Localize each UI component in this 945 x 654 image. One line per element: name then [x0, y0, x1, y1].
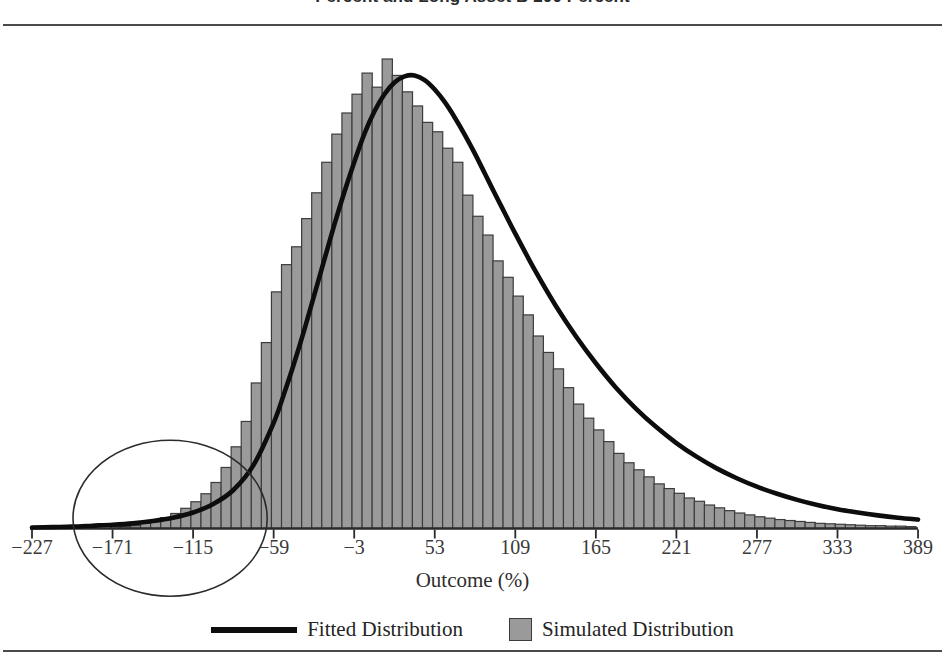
- chart-legend: Fitted Distribution Simulated Distributi…: [0, 617, 945, 642]
- histogram-bar: [513, 296, 523, 528]
- x-tick-label: −3: [344, 536, 365, 559]
- legend-item-fitted: Fitted Distribution: [211, 617, 463, 642]
- histogram-bar: [463, 195, 473, 528]
- histogram-bar: [664, 489, 674, 529]
- histogram-bar: [412, 106, 422, 529]
- histogram-bar: [443, 148, 453, 528]
- x-tick-label: 165: [581, 536, 611, 559]
- histogram-bar: [594, 430, 604, 529]
- histogram-bar: [493, 261, 503, 529]
- histogram-bar: [533, 336, 543, 529]
- legend-item-simulated: Simulated Distribution: [509, 617, 734, 642]
- histogram-bar: [483, 235, 493, 528]
- histogram-bar: [573, 404, 583, 528]
- histogram-bar: [322, 162, 332, 528]
- histogram-bar: [312, 193, 322, 529]
- histogram-bar: [704, 505, 714, 528]
- histogram-bar: [634, 470, 644, 529]
- histogram-bar: [735, 513, 745, 528]
- x-tick-label: −59: [258, 536, 289, 559]
- histogram-bar: [624, 463, 634, 529]
- legend-line-swatch-icon: [211, 627, 297, 633]
- histogram-bar: [292, 247, 302, 529]
- histogram-bar: [523, 315, 533, 529]
- histogram-bar: [775, 520, 785, 529]
- histogram-bar: [765, 518, 775, 528]
- histogram-bar: [453, 162, 463, 528]
- bottom-divider: [3, 650, 942, 652]
- histogram-bar: [694, 501, 704, 528]
- chart-figure: Percent and Long Asset B 200 Percent −22…: [0, 0, 945, 654]
- x-tick-label: 333: [823, 536, 853, 559]
- histogram-bar: [503, 277, 513, 528]
- x-tick-label: 221: [661, 536, 691, 559]
- histogram-bar: [604, 442, 614, 529]
- histogram-bar: [543, 352, 553, 528]
- histogram-bar: [422, 122, 432, 528]
- histogram-bar: [302, 219, 312, 529]
- legend-box-swatch-icon: [509, 618, 532, 641]
- x-tick-labels: −227−171−115−59−353109165221277333389: [0, 536, 945, 562]
- histogram-bar: [725, 511, 735, 529]
- x-tick-label: −171: [92, 536, 133, 559]
- legend-label-simulated: Simulated Distribution: [542, 617, 734, 642]
- legend-label-fitted: Fitted Distribution: [307, 617, 463, 642]
- histogram-svg: [0, 0, 945, 600]
- histogram-bar: [755, 517, 765, 529]
- histogram-bar: [584, 418, 594, 528]
- histogram-bar: [644, 477, 654, 529]
- histogram-bar: [402, 92, 412, 529]
- histogram-bar: [392, 75, 402, 528]
- histogram-bar: [332, 134, 342, 528]
- x-tick-label: −227: [11, 536, 52, 559]
- histogram-bar: [433, 132, 443, 529]
- x-tick-label: 389: [903, 536, 933, 559]
- histogram-bar: [372, 87, 382, 528]
- histogram-bar: [684, 498, 694, 529]
- x-tick-label: 277: [742, 536, 772, 559]
- histogram-bar: [614, 453, 624, 528]
- histogram-bar: [714, 508, 724, 529]
- histogram-bar: [745, 515, 755, 529]
- x-axis-title: Outcome (%): [0, 568, 945, 593]
- histogram-bar: [553, 369, 563, 529]
- x-tick-label: −115: [173, 536, 214, 559]
- histogram-bar: [674, 493, 684, 528]
- plot-area: [0, 0, 945, 600]
- x-tick-label: 109: [500, 536, 530, 559]
- histogram-bar: [654, 484, 664, 529]
- histogram-bar: [563, 388, 573, 529]
- histogram-bar: [473, 216, 483, 528]
- x-tick-label: 53: [425, 536, 445, 559]
- histogram-bar: [382, 59, 392, 529]
